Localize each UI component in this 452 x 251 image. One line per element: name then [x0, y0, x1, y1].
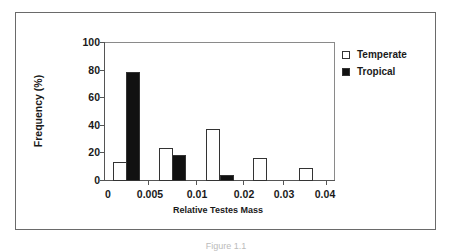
y-tick: [100, 152, 104, 153]
x-tick-label: 0: [105, 188, 111, 200]
x-tick: [196, 181, 197, 185]
legend-item-temperate: Temperate: [342, 46, 407, 63]
y-tick-label: 0: [94, 175, 100, 185]
x-tick-label: 0.005: [137, 188, 163, 200]
bar-tropical-bin1: [126, 72, 140, 181]
bar-tropical-bin3: [220, 175, 234, 181]
y-tick-label: 100: [82, 37, 100, 47]
bar-temperate-bin3: [206, 129, 220, 181]
y-tick: [100, 180, 104, 181]
y-tick-label: 80: [88, 65, 100, 75]
bar-temperate-bin5: [299, 168, 313, 181]
x-tick-label: 0.03: [274, 188, 294, 200]
x-tick-label: 0.04: [315, 188, 335, 200]
x-tick: [283, 181, 284, 185]
x-tick: [243, 181, 244, 185]
y-axis-title: Frequency (%): [32, 75, 44, 147]
legend-swatch-temperate-icon: [342, 51, 350, 59]
x-tick: [148, 181, 149, 185]
y-tick: [100, 125, 104, 126]
x-tick-label: 0.02: [234, 188, 254, 200]
bar-temperate-bin2: [159, 148, 173, 181]
y-tick-label: 60: [88, 92, 100, 102]
y-tick: [100, 70, 104, 71]
x-tick-label: 0.01: [187, 188, 207, 200]
y-tick: [100, 42, 104, 43]
legend-label: Tropical: [357, 66, 395, 77]
y-axis: [104, 42, 105, 181]
figure-caption: Figure 1.1: [206, 241, 247, 251]
legend-swatch-tropical-icon: [342, 68, 350, 76]
x-tick: [326, 181, 327, 185]
legend: Temperate Tropical: [342, 46, 407, 80]
y-tick-label: 40: [88, 120, 100, 130]
y-tick-label: 20: [88, 147, 100, 157]
bar-temperate-bin1: [113, 162, 127, 181]
legend-label: Temperate: [357, 49, 407, 60]
y-tick: [100, 97, 104, 98]
x-axis-title: Relative Testes Mass: [173, 205, 263, 215]
bar-temperate-bin4: [253, 158, 267, 181]
legend-item-tropical: Tropical: [342, 63, 407, 80]
bar-tropical-bin2: [172, 155, 186, 181]
